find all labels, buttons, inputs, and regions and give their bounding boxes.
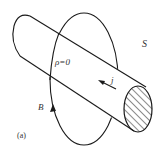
surface-label: S <box>142 38 147 49</box>
current-density-label: j <box>110 75 114 85</box>
charge-density-label: ρ=0 <box>54 57 70 67</box>
cylinder-current-diagram: ρ=0 j S B (a) <box>0 0 163 151</box>
magnetic-field-label: B <box>38 102 44 112</box>
magnetic-field-arrow-icon <box>50 104 56 112</box>
panel-label: (a) <box>17 131 26 140</box>
